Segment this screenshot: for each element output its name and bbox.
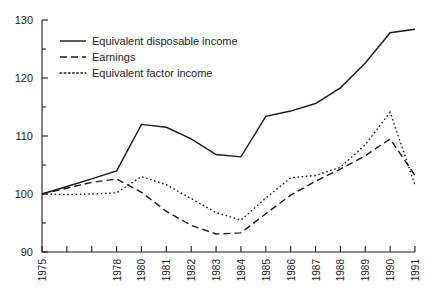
series-line: [42, 139, 415, 234]
y-tick-label: 120: [15, 72, 33, 84]
chart-canvas: 13012011010090 1975197819801981198219831…: [0, 0, 426, 306]
y-tick-labels: 13012011010090: [15, 14, 33, 258]
x-tick-marks: [42, 246, 415, 252]
x-axis-group: 1975197819801981198219831984198519861987…: [37, 246, 421, 281]
series-line: [42, 112, 415, 220]
x-tick-label: 1986: [286, 259, 297, 282]
chart-legend: Equivalent disposable incomeEarningsEqui…: [60, 35, 238, 79]
x-tick-label: 1983: [211, 259, 222, 282]
x-tick-label: 1980: [136, 259, 147, 282]
y-tick-label: 130: [15, 14, 33, 26]
line-chart: 13012011010090 1975197819801981198219831…: [0, 0, 426, 306]
legend-label: Equivalent disposable income: [92, 35, 238, 47]
y-tick-label: 90: [21, 246, 33, 258]
x-tick-label: 1988: [335, 259, 346, 282]
y-tick-label: 110: [15, 130, 33, 142]
legend-label: Equivalent factor income: [92, 67, 212, 79]
x-tick-labels: 1975197819801981198219831984198519861987…: [37, 259, 421, 282]
x-tick-label: 1990: [385, 259, 396, 282]
y-tick-marks: [42, 20, 48, 252]
x-tick-label: 1978: [112, 259, 123, 282]
x-tick-label: 1984: [236, 259, 247, 282]
x-tick-label: 1985: [261, 259, 272, 282]
x-tick-label: 1981: [161, 259, 172, 282]
x-tick-label: 1982: [186, 259, 197, 282]
legend-label: Earnings: [92, 51, 136, 63]
y-axis-group: 13012011010090: [15, 14, 48, 258]
x-tick-label: 1991: [410, 259, 421, 282]
x-tick-label: 1975: [37, 259, 48, 282]
y-tick-label: 100: [15, 188, 33, 200]
x-tick-label: 1987: [311, 259, 322, 282]
x-tick-label: 1989: [360, 259, 371, 282]
